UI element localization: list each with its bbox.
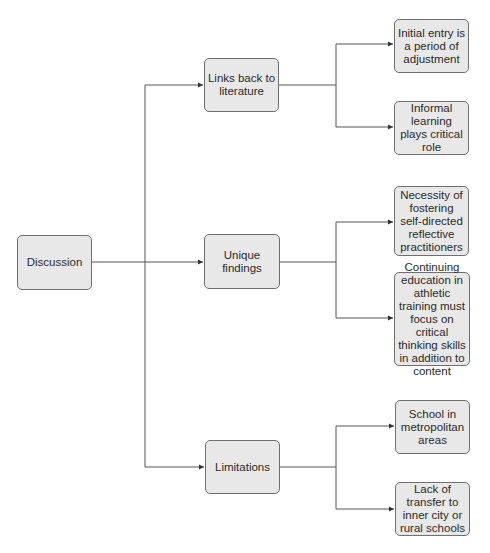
leaf-metropolitan-schools: School in metropolitan areas xyxy=(395,400,470,454)
root-node-discussion: Discussion xyxy=(17,235,92,290)
leaf-continuing-education: Continuing education in athletic trainin… xyxy=(394,272,470,366)
node-unique-findings: Unique findings xyxy=(204,234,280,289)
leaf-lack-of-transfer: Lack of transfer to inner city or rural … xyxy=(395,482,470,536)
leaf-initial-entry: Initial entry is a period of adjustment xyxy=(394,19,469,73)
node-links-back-to-literature: Links back to literature xyxy=(204,58,279,112)
leaf-self-directed-practitioners: Necessity of fostering self-directed ref… xyxy=(394,186,469,256)
node-limitations: Limitations xyxy=(205,440,280,494)
leaf-informal-learning: Informal learning plays critical role xyxy=(394,101,469,155)
